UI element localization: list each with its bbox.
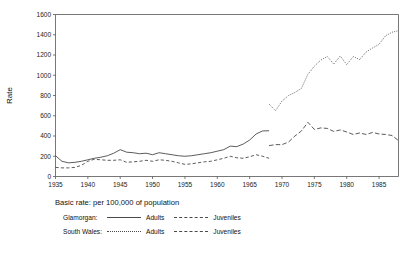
x-tick-label: 1950	[145, 181, 160, 188]
legend-entry-label: Juveniles	[213, 228, 241, 235]
x-tick-label: 1975	[307, 181, 322, 188]
plot-frame	[56, 15, 399, 177]
x-tick-label: 1935	[48, 181, 63, 188]
y-tick-label: 400	[40, 132, 51, 139]
legend-entry-label: Adults	[146, 214, 164, 221]
legend-line-swatch	[107, 217, 141, 218]
legend-line-swatch	[174, 231, 208, 232]
x-tick-label: 1970	[275, 181, 290, 188]
series-south-wales-juveniles	[269, 122, 398, 145]
legend-row: Glamorgan:AdultsJuveniles	[63, 214, 251, 221]
x-tick-label: 1940	[81, 181, 96, 188]
legend-line-swatch	[174, 217, 208, 218]
legend-group-label: South Wales:	[63, 228, 107, 235]
y-tick-label: 800	[40, 92, 51, 99]
x-tick-label: 1965	[242, 181, 257, 188]
y-tick-label: 1200	[37, 51, 52, 58]
legend-row: South Wales:AdultsJuveniles	[63, 228, 251, 235]
x-tick-label: 1985	[372, 181, 387, 188]
y-tick-label: 200	[40, 153, 51, 160]
series-south-wales-adults	[269, 31, 398, 111]
y-axis-label: Rate	[5, 87, 14, 104]
legend-line-swatch	[107, 231, 141, 232]
chart-note: Basic rate: per 100,000 of population	[55, 198, 179, 207]
y-tick-label: 1400	[37, 31, 52, 38]
y-tick-label: 600	[40, 112, 51, 119]
legend-entry-label: Juveniles	[213, 214, 241, 221]
x-tick-label: 1945	[113, 181, 128, 188]
series-glamorgan-juveniles	[56, 155, 270, 168]
y-tick-label: 1000	[37, 72, 52, 79]
legend-entry-label: Adults	[146, 228, 164, 235]
x-tick-label: 1980	[339, 181, 354, 188]
x-tick-label: 1960	[210, 181, 225, 188]
y-tick-label: 0	[47, 173, 51, 180]
x-tick-label: 1955	[178, 181, 193, 188]
legend-group-label: Glamorgan:	[63, 214, 107, 221]
cropped-caption-fragment	[52, 246, 408, 256]
y-tick-label: 1600	[37, 11, 52, 18]
